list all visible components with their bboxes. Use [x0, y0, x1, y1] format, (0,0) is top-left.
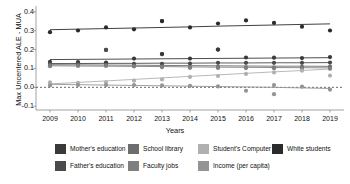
data-point	[300, 69, 304, 73]
data-point	[244, 18, 248, 22]
data-point	[76, 64, 80, 68]
data-point	[104, 64, 108, 68]
legend-item-school-library[interactable]: School library	[128, 144, 183, 154]
y-tick-label: -0.1	[12, 102, 34, 110]
x-tick-label: 2015	[205, 115, 231, 123]
legend-swatch	[128, 161, 139, 171]
x-tick-label: 2009	[37, 115, 63, 123]
x-tick-label: 2013	[149, 115, 175, 123]
legend-item-income-per-capita-[interactable]: Income (per capita)	[198, 161, 270, 171]
y-tick-label: 0.4	[12, 8, 34, 16]
legend-label: Faculty jobs	[143, 161, 178, 171]
legend-item-mother-s-education[interactable]: Mother's education	[55, 144, 126, 154]
data-point-outlier	[104, 48, 108, 52]
legend-label: White students	[287, 144, 331, 154]
data-point	[160, 64, 164, 68]
y-tick-label: 0.1	[12, 64, 34, 72]
data-point	[328, 74, 332, 78]
legend-swatch	[128, 144, 139, 154]
data-point	[132, 79, 136, 83]
data-point	[48, 83, 52, 87]
data-point	[272, 66, 276, 70]
chart-legend: Mother's educationSchool libraryStudent'…	[0, 141, 350, 184]
x-tick-label: 2012	[121, 115, 147, 123]
data-point	[244, 55, 248, 59]
data-point	[216, 84, 220, 88]
data-point	[132, 57, 136, 61]
data-point	[244, 89, 248, 93]
data-point	[188, 66, 192, 70]
data-point	[328, 60, 332, 64]
x-axis-label: Years	[0, 126, 350, 135]
legend-item-student-s-computer[interactable]: Student's Computer	[198, 144, 271, 154]
legend-swatch	[198, 144, 209, 154]
data-point	[300, 61, 304, 65]
data-point	[188, 84, 192, 88]
data-point	[216, 74, 220, 78]
data-point	[76, 28, 80, 32]
legend-label: Mother's education	[70, 144, 126, 154]
data-point	[272, 21, 276, 25]
data-point	[244, 72, 248, 76]
data-point	[76, 83, 80, 87]
legend-swatch	[55, 161, 66, 171]
legend-row: Father's educationFaculty jobsIncome (pe…	[0, 158, 350, 173]
legend-item-white-students[interactable]: White students	[272, 144, 331, 154]
data-point	[48, 30, 52, 34]
legend-label: Income (per capita)	[213, 161, 270, 171]
y-tick-label: 0.3	[12, 27, 34, 35]
data-point	[188, 57, 192, 61]
data-point	[300, 56, 304, 60]
data-point	[272, 83, 276, 87]
data-point	[272, 56, 276, 60]
data-point	[328, 67, 332, 71]
legend-label: School library	[143, 144, 183, 154]
y-tick-label: 0.0	[12, 83, 34, 91]
data-point	[104, 25, 108, 29]
data-point	[244, 66, 248, 70]
chart-figure: Max Uncentered ALE - MUA 0.40.30.20.10.0…	[0, 0, 350, 184]
data-point	[48, 64, 52, 68]
x-tick-label: 2011	[93, 115, 119, 123]
x-tick-label: 2014	[177, 115, 203, 123]
data-point	[160, 83, 164, 87]
data-point	[188, 61, 192, 65]
legend-label: Father's education	[70, 161, 124, 171]
data-point-outlier	[272, 92, 276, 96]
data-point	[188, 25, 192, 29]
data-point	[328, 88, 332, 92]
data-point-outlier	[216, 47, 220, 51]
plot-area: Max Uncentered ALE - MUA 0.40.30.20.10.0…	[0, 0, 350, 140]
legend-swatch	[198, 161, 209, 171]
data-point	[272, 61, 276, 65]
x-tick-label: 2016	[233, 115, 259, 123]
data-point	[328, 28, 332, 32]
x-tick-label: 2010	[65, 115, 91, 123]
data-point	[188, 75, 192, 79]
data-point	[300, 84, 304, 88]
data-point	[216, 61, 220, 65]
data-point	[216, 66, 220, 70]
x-tick-label: 2018	[289, 115, 315, 123]
y-axis-ticks: 0.40.30.20.10.0-0.1	[12, 0, 34, 120]
legend-swatch	[55, 144, 66, 154]
x-tick-label: 2019	[317, 115, 343, 123]
legend-label: Student's Computer	[213, 144, 271, 154]
legend-swatch	[272, 144, 283, 154]
data-point	[272, 70, 276, 74]
data-point	[104, 83, 108, 87]
legend-row: Mother's educationSchool libraryStudent'…	[0, 141, 350, 156]
legend-item-faculty-jobs[interactable]: Faculty jobs	[128, 161, 178, 171]
data-point	[132, 64, 136, 68]
data-point-outlier	[160, 19, 164, 23]
data-point	[244, 61, 248, 65]
data-point	[300, 25, 304, 29]
data-point	[328, 55, 332, 59]
y-tick-label: 0.2	[12, 46, 34, 54]
data-point	[132, 83, 136, 87]
data-point	[216, 21, 220, 25]
legend-item-father-s-education[interactable]: Father's education	[55, 161, 124, 171]
data-point-outlier	[160, 52, 164, 56]
x-tick-label: 2017	[261, 115, 287, 123]
data-point	[132, 27, 136, 31]
